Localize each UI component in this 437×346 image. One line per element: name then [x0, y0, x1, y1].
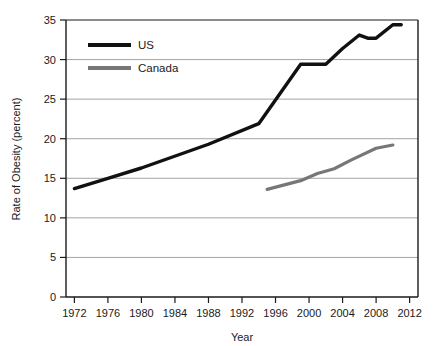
y-tick-label-0: 0 — [50, 291, 56, 303]
y-tick-label-35: 35 — [44, 14, 56, 26]
x-tick-label-1980: 1980 — [129, 307, 153, 319]
y-tick-label-15: 15 — [44, 172, 56, 184]
chart-canvas: 05101520253035 1972197619801984198819921… — [0, 0, 437, 346]
y-tick-label-30: 30 — [44, 54, 56, 66]
legend-label-canada: Canada — [138, 62, 179, 74]
y-tick-label-25: 25 — [44, 93, 56, 105]
x-tick-label-1976: 1976 — [96, 307, 120, 319]
y-tick-label-5: 5 — [50, 251, 56, 263]
x-tick-label-2008: 2008 — [364, 307, 388, 319]
legend-label-us: US — [138, 39, 154, 51]
y-axis-title: Rate of Obesity (percent) — [10, 98, 22, 221]
y-tick-label-10: 10 — [44, 212, 56, 224]
x-tick-label-1992: 1992 — [230, 307, 254, 319]
y-tick-label-20: 20 — [44, 133, 56, 145]
x-tick-label-1988: 1988 — [196, 307, 220, 319]
x-tick-label-1984: 1984 — [163, 307, 187, 319]
x-tick-label-2004: 2004 — [330, 307, 354, 319]
x-tick-label-2012: 2012 — [397, 307, 421, 319]
x-tick-label-1972: 1972 — [62, 307, 86, 319]
x-tick-label-1996: 1996 — [263, 307, 287, 319]
x-axis-tick-labels: 1972197619801984198819921996200020042008… — [62, 307, 422, 319]
x-tick-label-2000: 2000 — [297, 307, 321, 319]
obesity-rate-line-chart: 05101520253035 1972197619801984198819921… — [0, 0, 437, 346]
x-axis-title: Year — [231, 331, 254, 343]
